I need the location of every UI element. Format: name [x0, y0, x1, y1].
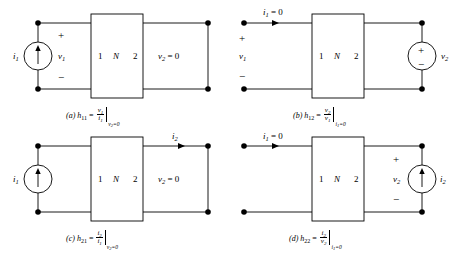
caption-d-fraction: i2 v2 [320, 230, 328, 246]
panel-d: i1 = 0 1 N 2 + v2 − i2 (d) h22 = i2 v2 i… [227, 132, 454, 264]
source-label-v2: v2 [441, 52, 448, 61]
box-port2-label: 2 [133, 175, 138, 184]
box-port1-label: 1 [319, 52, 324, 61]
source-minus-sign: − [418, 59, 424, 70]
caption-a: (a) h11 = v1 i1 v2=0 [66, 108, 118, 124]
caption-c-fraction: i2 i1 [96, 230, 102, 246]
caption-c: (c) h21 = i2 i1 v2=0 [66, 231, 117, 247]
source-label-i1: i1 [13, 52, 19, 61]
output-condition-v2: v2 = 0 [158, 52, 179, 61]
caption-b-condition: i1=0 [335, 122, 345, 128]
box-port2-label: 2 [354, 52, 359, 61]
plus-sign-v2: + [393, 154, 399, 165]
box-port1-label: 1 [98, 52, 103, 61]
minus-sign-v2: − [393, 194, 399, 205]
box-network-label: N [113, 175, 119, 184]
voltage-label-v1: v1 [58, 52, 65, 61]
evaluation-bar [329, 230, 330, 245]
current-arrow-head [419, 168, 424, 174]
input-current-arrow-head [272, 143, 279, 149]
panel-b: i1 = 0 + v1 − 1 N 2 + − v2 (b) h12 = v2 … [227, 0, 454, 132]
box-network-label: N [113, 52, 119, 61]
evaluation-bar [105, 230, 106, 245]
box-port1-label: 1 [319, 175, 324, 184]
caption-d-condition: i1=0 [331, 245, 341, 251]
voltage-label-v2: v2 [393, 175, 400, 184]
box-port2-label: 2 [354, 175, 359, 184]
caption-b: (b) h12 = v2 v1 i1=0 [293, 108, 345, 124]
input-current-label-i1: i1 = 0 [263, 132, 283, 141]
source-label-i1: i1 [13, 175, 19, 184]
plus-sign-v1: + [239, 33, 245, 44]
box-network-label: N [334, 175, 340, 184]
output-current-label-i2: i2 [172, 132, 178, 141]
evaluation-bar [333, 107, 334, 122]
current-arrow-head [35, 168, 40, 174]
panel-a: i1 + v1 − 1 N 2 v2 = 0 (a) h11 = v1 i1 v… [0, 0, 227, 132]
minus-sign-v1: − [239, 71, 245, 82]
current-arrow-head [35, 45, 40, 51]
box-network-label: N [334, 52, 340, 61]
voltage-label-v1: v1 [239, 52, 246, 61]
box-port2-label: 2 [133, 52, 138, 61]
box-port1-label: 1 [98, 175, 103, 184]
output-condition-v2: v2 = 0 [158, 175, 179, 184]
caption-a-condition: v2=0 [108, 122, 119, 128]
caption-c-condition: v2=0 [107, 245, 118, 251]
evaluation-bar [106, 107, 107, 122]
caption-a-fraction: v1 i1 [97, 107, 105, 123]
input-current-label-i1: i1 = 0 [263, 8, 283, 17]
source-plus-sign: + [418, 45, 424, 56]
h-parameter-figure: i1 + v1 − 1 N 2 v2 = 0 (a) h11 = v1 i1 v… [0, 0, 454, 264]
plus-sign-v1: + [58, 30, 64, 41]
caption-b-fraction: v2 v1 [324, 107, 332, 123]
output-current-arrow-head [178, 143, 185, 149]
panel-c: i1 i2 1 N 2 v2 = 0 (c) h21 = i2 i1 v2=0 [0, 132, 227, 264]
caption-d: (d) h22 = i2 v2 i1=0 [289, 231, 341, 247]
minus-sign-v1: − [58, 72, 64, 83]
source-label-i2: i2 [440, 175, 446, 184]
input-current-arrow-head [272, 20, 279, 26]
